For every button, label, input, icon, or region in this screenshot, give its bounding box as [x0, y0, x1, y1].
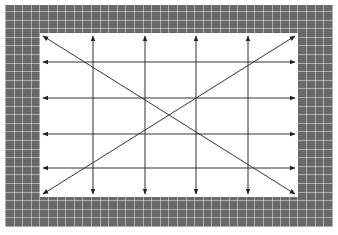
caption-text — [0, 228, 338, 235]
arrow-diagram — [0, 0, 338, 235]
